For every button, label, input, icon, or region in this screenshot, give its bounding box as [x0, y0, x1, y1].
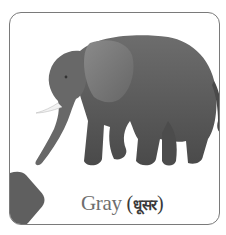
elephant-illustration	[18, 21, 220, 171]
color-label: Gray (धूसर)	[81, 191, 163, 217]
paren-close: )	[157, 192, 163, 214]
color-name-hindi: धूसर	[133, 196, 157, 214]
color-card: Gray (धूसर)	[9, 12, 220, 225]
color-swatch-shape	[10, 171, 46, 225]
paren-open: (	[122, 192, 133, 214]
color-name-english: Gray	[81, 191, 122, 215]
